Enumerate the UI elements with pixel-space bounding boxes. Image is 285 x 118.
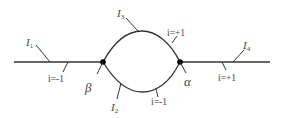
label-I4: I4 (242, 39, 251, 53)
pointer-I3 (126, 18, 138, 31)
label-I1: I1 (25, 36, 34, 50)
pointer-I4 (233, 50, 244, 62)
label-alpha: α (184, 74, 192, 89)
pointer-i-right (222, 62, 226, 70)
label-beta: β (84, 80, 92, 95)
pointer-alpha (180, 62, 186, 73)
pointer-beta (97, 62, 103, 74)
label-I3: I3 (116, 7, 125, 21)
pointer-i-lower (156, 89, 158, 97)
index-I2: i=-1 (151, 97, 167, 107)
label-I2: I2 (110, 101, 119, 115)
index-I1: i=-1 (48, 74, 64, 84)
index-I4: i=+1 (218, 73, 236, 83)
index-I3: i=+1 (167, 28, 185, 38)
pointer-I2 (117, 83, 121, 99)
arc-lower (103, 62, 180, 92)
pointer-I1 (36, 45, 50, 62)
pointer-i-left (63, 62, 68, 72)
loop-diagram: I1 i=-1 β I3 i=+1 I2 i=-1 α I4 i=+1 (0, 0, 285, 118)
